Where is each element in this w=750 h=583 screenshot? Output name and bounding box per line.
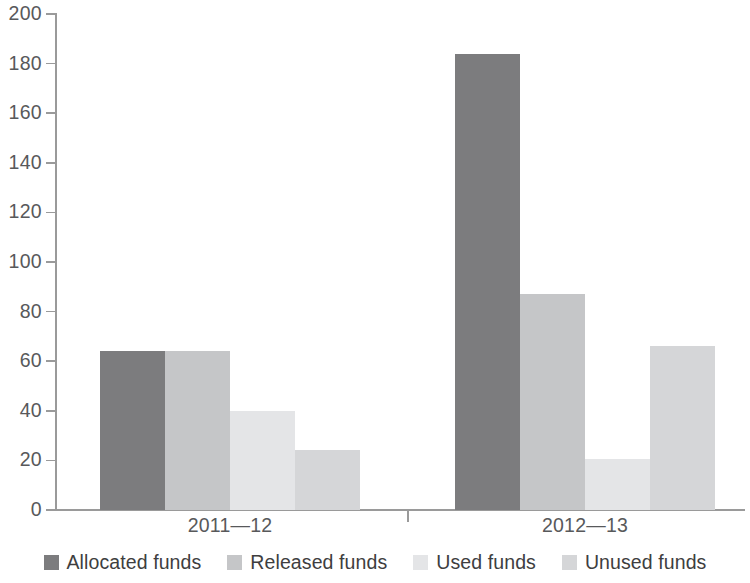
y-axis-tick-label: 160 [0, 103, 42, 123]
plot-area [56, 14, 750, 510]
legend-swatch-icon [227, 555, 242, 570]
y-axis-tick [46, 212, 56, 214]
y-axis-tick-label: 120 [0, 202, 42, 222]
legend-swatch-icon [413, 555, 428, 570]
chart-legend: Allocated fundsReleased fundsUsed fundsU… [0, 553, 750, 573]
y-axis-tick-label: 140 [0, 153, 42, 173]
legend-item[interactable]: Allocated funds [44, 553, 202, 573]
y-axis-tick [46, 112, 56, 114]
y-axis-tick-label: 80 [0, 302, 42, 322]
x-axis-category-label: 2012—13 [455, 516, 715, 536]
bar [165, 351, 230, 510]
legend-label: Unused funds [585, 553, 707, 573]
legend-swatch-icon [44, 555, 59, 570]
bar [585, 459, 650, 510]
y-axis-tick [46, 509, 56, 511]
y-axis-tick-label: 100 [0, 252, 42, 272]
y-axis-tick [46, 410, 56, 412]
y-axis-tick-label: 20 [0, 450, 42, 470]
legend-label: Released funds [250, 553, 387, 573]
y-axis-tick-label: 180 [0, 54, 42, 74]
bar [650, 346, 715, 510]
y-axis-tick [46, 311, 56, 313]
y-axis-tick-label: 60 [0, 351, 42, 371]
legend-item[interactable]: Released funds [227, 553, 387, 573]
bar [520, 294, 585, 510]
legend-item[interactable]: Used funds [413, 553, 536, 573]
bar [100, 351, 165, 510]
bar-chart: 020406080100120140160180200 2011—122012—… [0, 0, 750, 583]
y-axis-tick [46, 162, 56, 164]
legend-label: Allocated funds [67, 553, 202, 573]
y-axis-tick [46, 63, 56, 65]
y-axis-tick [46, 261, 56, 263]
y-axis-tick [46, 460, 56, 462]
y-axis-tick-label: 0 [0, 500, 42, 520]
bar [230, 411, 295, 510]
x-axis-group-separator-tick [407, 511, 409, 522]
bar [295, 450, 360, 510]
y-axis-tick [46, 360, 56, 362]
bar [455, 54, 520, 510]
y-axis-tick-label: 40 [0, 401, 42, 421]
y-axis-tick [46, 13, 56, 15]
legend-item[interactable]: Unused funds [562, 553, 707, 573]
x-axis-category-label: 2011—12 [100, 516, 360, 536]
y-axis-tick-label: 200 [0, 4, 42, 24]
legend-label: Used funds [436, 553, 536, 573]
legend-swatch-icon [562, 555, 577, 570]
